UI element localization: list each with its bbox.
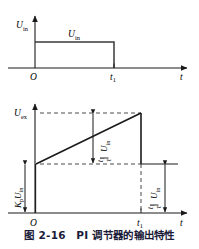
output-ramp-line (36, 113, 141, 164)
figure-caption: 图 2-16 PI 调节器的输出特性 (0, 227, 199, 242)
top-x-axis-label: t (180, 72, 183, 82)
ramp-magnitude-tail: Uin (99, 141, 110, 152)
ramp-magnitude-denominator: τ (105, 158, 113, 161)
figure-svg: Uin Uin O t1 t Uex O t1 t KpUin (0, 0, 199, 249)
figure-container: Uin Uin O t1 t Uex O t1 t KpUin (0, 0, 199, 249)
ramp-magnitude-label-group: t1 τ Uin (97, 141, 114, 162)
input-pulse-path (35, 42, 114, 68)
pulse-value-label: Uin (68, 29, 81, 41)
right-magnitude-tail: Uin (149, 188, 160, 199)
top-y-axis-label: Uin (16, 20, 29, 32)
right-magnitude-numerator: t1 (147, 204, 156, 209)
bottom-y-axis-label: Uex (14, 108, 28, 120)
top-panel-group (8, 16, 187, 68)
top-origin-label: O (30, 72, 37, 82)
bottom-panel-group (8, 104, 187, 213)
ramp-magnitude-numerator: t1 (97, 157, 106, 162)
step-magnitude-label-group: KpUin (13, 188, 24, 209)
top-t1-label: t1 (110, 72, 116, 83)
right-magnitude-label-group: t1 τ Uin (147, 188, 164, 209)
right-magnitude-denominator: τ (155, 205, 163, 208)
step-magnitude-label: KpUin (13, 188, 24, 209)
